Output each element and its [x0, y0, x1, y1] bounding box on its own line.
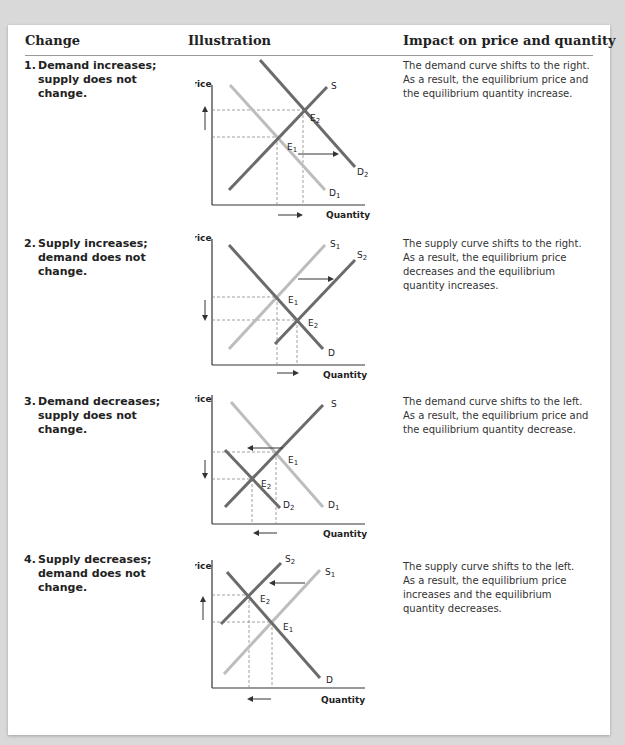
label-d: D: [328, 348, 335, 358]
impact-line: quantity increases.: [403, 279, 603, 293]
column-header-illustration: Illustration: [188, 33, 271, 48]
change-line: Supply decreases;: [38, 553, 178, 567]
change-line: supply does not: [38, 73, 178, 87]
label-s: S: [331, 81, 337, 91]
label-d1: D1: [329, 188, 340, 200]
label-e2: E2: [260, 594, 270, 606]
row-4-change: 4. Supply decreases; demand does not cha…: [38, 553, 178, 595]
change-line: Demand increases;: [38, 59, 178, 73]
impact-line: The supply curve shifts to the left.: [403, 560, 603, 574]
quantity-axis-label: Quantity: [321, 695, 365, 705]
label-d2: D2: [357, 167, 368, 179]
label-d: D: [326, 675, 333, 685]
change-line: change.: [38, 265, 178, 279]
change-line: Supply increases;: [38, 237, 178, 251]
row-3-diagram: Price S E1 E2 D2 D1 Quantity: [195, 390, 375, 550]
impact-line: The demand curve shifts to the left.: [403, 395, 603, 409]
impact-line: The demand curve shifts to the right.: [403, 59, 603, 73]
label-d2: D2: [283, 500, 294, 512]
price-axis-label: Price: [195, 561, 212, 571]
label-e1: E1: [288, 295, 298, 307]
row-4-impact: The supply curve shifts to the left. As …: [403, 560, 603, 616]
row-1-diagram: Price S E2 E1 D2 D1 Quantity: [195, 55, 375, 225]
demand-curve-d: [227, 572, 320, 678]
label-s1: S1: [330, 239, 340, 251]
change-line: change.: [38, 423, 178, 437]
label-e1: E1: [283, 622, 293, 634]
arrow-head: [202, 106, 208, 112]
impact-line: As a result, the equilibrium price and: [403, 73, 603, 87]
quantity-axis-label: Quantity: [323, 370, 367, 380]
price-axis-label: Price: [195, 79, 212, 89]
row-4-diagram: Price S2 S1 E2 E1 D Quantity: [195, 548, 375, 708]
label-e1: E1: [288, 455, 298, 467]
label-d1: D1: [328, 500, 339, 512]
shift-left-arrow: [269, 580, 275, 586]
impact-line: quantity decreases.: [403, 602, 603, 616]
impact-line: the equilibrium quantity increase.: [403, 87, 603, 101]
row-3-change: 3. Demand decreases; supply does not cha…: [38, 395, 178, 437]
change-line: change.: [38, 87, 178, 101]
supply-curve-s2: [221, 563, 281, 624]
row-1-impact: The demand curve shifts to the right. As…: [403, 59, 603, 101]
price-up-arrow: [200, 596, 206, 602]
row-2-diagram: Price S1 S2 E1 E2 D Quantity: [195, 225, 375, 385]
shift-left-arrow: [247, 445, 253, 451]
row-number: 4.: [24, 553, 36, 567]
label-e1: E1: [287, 142, 297, 154]
change-line: Demand decreases;: [38, 395, 178, 409]
price-axis-label: Price: [195, 394, 212, 404]
quantity-axis-label: Quantity: [326, 210, 370, 220]
impact-line: increases and the equilibrium: [403, 588, 603, 602]
demand-curve-d2: [260, 60, 355, 167]
supply-curve-s2: [275, 260, 355, 344]
column-header-impact: Impact on price and quantity: [403, 33, 615, 48]
impact-line: As a result, the equilibrium price: [403, 574, 603, 588]
row-2-impact: The supply curve shifts to the right. As…: [403, 237, 603, 293]
impact-line: As a result, the equilibrium price and: [403, 409, 603, 423]
change-line: change.: [38, 581, 178, 595]
impact-line: As a result, the equilibrium price: [403, 251, 603, 265]
row-number: 2.: [24, 237, 36, 251]
column-header-change: Change: [25, 33, 80, 48]
row-1-change: 1. Demand increases; supply does not cha…: [38, 59, 178, 101]
change-line: demand does not: [38, 567, 178, 581]
quantity-axis-label: Quantity: [323, 529, 367, 539]
label-s: S: [331, 399, 337, 409]
impact-line: decreases and the equilibrium: [403, 265, 603, 279]
quantity-left-arrow: [253, 530, 259, 536]
price-axis-label: Price: [195, 233, 212, 243]
row-number: 3.: [24, 395, 36, 409]
row-2-change: 2. Supply increases; demand does not cha…: [38, 237, 178, 279]
quantity-right-arrow: [293, 370, 299, 376]
label-s2: S2: [357, 250, 367, 262]
impact-line: The supply curve shifts to the right.: [403, 237, 603, 251]
impact-line: the equilibrium quantity decrease.: [403, 423, 603, 437]
label-s2: S2: [285, 554, 295, 566]
price-down-arrow: [202, 315, 208, 321]
quantity-left-arrow: [247, 696, 253, 702]
label-e2: E2: [310, 113, 320, 125]
label-s1: S1: [325, 567, 335, 579]
price-down-arrow: [202, 473, 208, 479]
change-line: supply does not: [38, 409, 178, 423]
row-3-impact: The demand curve shifts to the left. As …: [403, 395, 603, 437]
label-e2: E2: [308, 318, 318, 330]
change-line: demand does not: [38, 251, 178, 265]
row-number: 1.: [24, 59, 36, 73]
